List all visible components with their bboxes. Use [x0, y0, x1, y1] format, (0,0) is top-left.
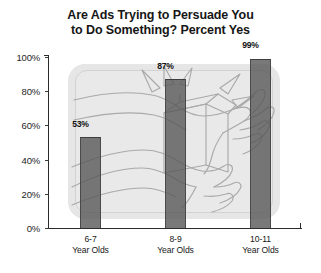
x-category-10-11-line-1: 10-11: [250, 234, 271, 244]
y-tick-0: [45, 228, 49, 229]
y-tick-label-60: 60%: [0, 120, 40, 131]
bar-value-label-8-9: 87%: [146, 61, 186, 71]
x-category-10-11-line-2: Year Olds: [226, 245, 296, 256]
x-category-6-7-line-2: Year Olds: [56, 245, 126, 256]
bar-10-11[interactable]: [250, 59, 271, 228]
y-axis-line: [48, 55, 49, 229]
y-tick-40: [45, 160, 49, 161]
y-tick-60: [45, 125, 49, 126]
chart-title-line-2: to Do Something? Percent Yes: [0, 23, 321, 38]
x-category-label-8-9: 8-9 Year Olds: [141, 234, 211, 256]
burst-line-4: [220, 74, 240, 94]
y-tick-100: [45, 57, 49, 58]
y-tick-label-40: 40%: [0, 154, 40, 165]
x-axis-line: [48, 228, 302, 229]
x-category-6-7-line-1: 6-7: [84, 234, 96, 244]
bar-value-label-6-7: 53%: [61, 119, 101, 129]
x-category-8-9-line-2: Year Olds: [141, 245, 211, 256]
x-category-label-6-7: 6-7 Year Olds: [56, 234, 126, 256]
y-tick-label-0: 0%: [0, 223, 40, 234]
chart-title-line-1: Are Ads Trying to Persuade You: [67, 8, 253, 22]
y-tick-label-80: 80%: [0, 86, 40, 97]
x-axis-end-cap: [300, 223, 301, 228]
hand-left-finger-2: [204, 193, 233, 212]
y-tick-20: [45, 194, 49, 195]
x-category-label-10-11: 10-11 Year Olds: [226, 234, 296, 256]
bar-6-7[interactable]: [80, 137, 101, 228]
y-axis-top-cap: [44, 55, 49, 56]
chart-title: Are Ads Trying to Persuade You to Do Som…: [0, 8, 321, 38]
x-category-8-9-line-1: 8-9: [169, 234, 181, 244]
burst-line-1: [142, 70, 160, 92]
bar-value-label-10-11: 99%: [231, 40, 271, 50]
y-tick-label-20: 20%: [0, 188, 40, 199]
y-tick-80: [45, 91, 49, 92]
y-tick-label-100: 100%: [0, 52, 40, 63]
bar-chart: Are Ads Trying to Persuade You to Do Som…: [0, 0, 321, 273]
bar-8-9[interactable]: [165, 79, 186, 228]
plot-area: [48, 57, 301, 228]
